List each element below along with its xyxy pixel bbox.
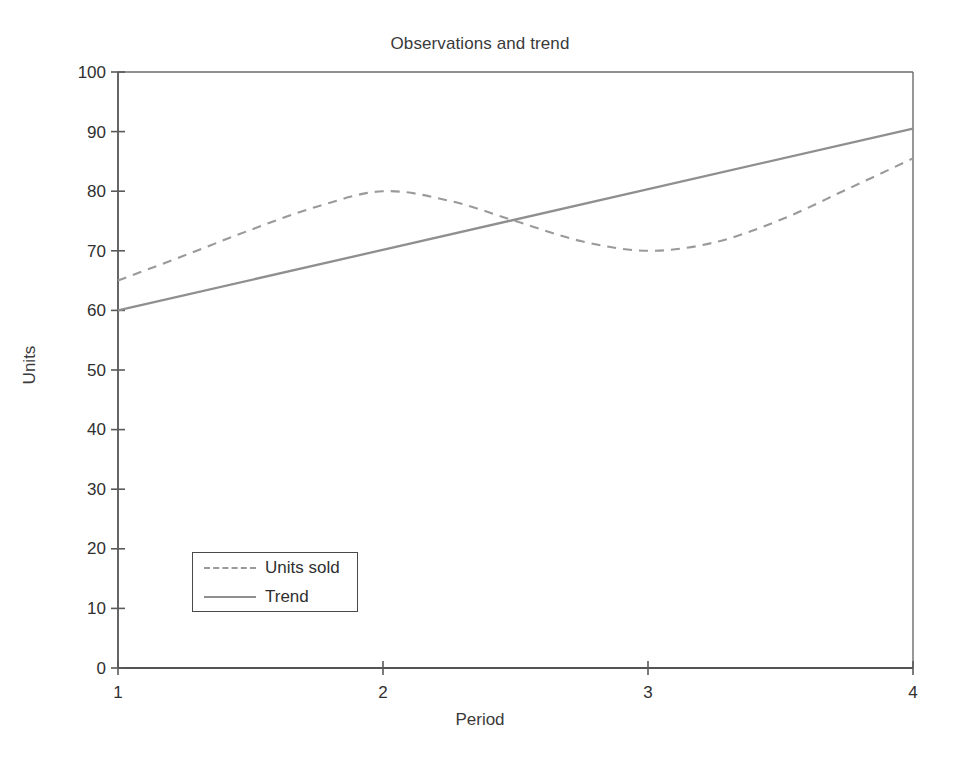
legend-item-trend: Trend bbox=[193, 582, 357, 612]
y-tick-label: 30 bbox=[46, 481, 106, 498]
legend-swatch-dashed bbox=[204, 567, 256, 569]
y-tick-label: 60 bbox=[46, 302, 106, 319]
y-tick-label: 10 bbox=[46, 600, 106, 617]
x-axis-label: Period bbox=[0, 710, 960, 730]
x-tick-label: 1 bbox=[98, 684, 138, 701]
legend-label: Units sold bbox=[265, 558, 340, 578]
x-tick-label: 3 bbox=[628, 684, 668, 701]
y-tick-label: 80 bbox=[46, 183, 106, 200]
legend-item-units-sold: Units sold bbox=[193, 553, 357, 583]
y-tick-label: 50 bbox=[46, 362, 106, 379]
chart-legend: Units sold Trend bbox=[192, 552, 358, 612]
legend-label: Trend bbox=[265, 587, 309, 607]
x-tick-label: 2 bbox=[363, 684, 403, 701]
y-tick-label: 70 bbox=[46, 243, 106, 260]
y-tick-label: 20 bbox=[46, 540, 106, 557]
chart-title: Observations and trend bbox=[0, 34, 960, 54]
y-tick-label: 0 bbox=[46, 660, 106, 677]
legend-swatch-solid bbox=[204, 596, 256, 598]
series-line-trend bbox=[118, 129, 913, 311]
data-series-layer bbox=[118, 129, 913, 311]
plot-area bbox=[0, 0, 960, 778]
y-axis-label: Units bbox=[20, 305, 40, 425]
y-tick-label: 100 bbox=[46, 64, 106, 81]
x-tick-label: 4 bbox=[893, 684, 933, 701]
y-tick-label: 90 bbox=[46, 124, 106, 141]
chart-figure: Observations and trend Units Period 100 … bbox=[0, 0, 960, 778]
y-tick-label: 40 bbox=[46, 421, 106, 438]
